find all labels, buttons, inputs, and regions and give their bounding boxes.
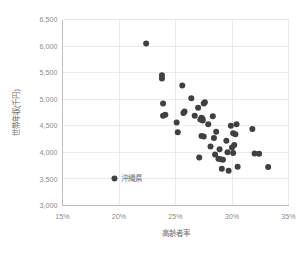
data-point [159, 75, 165, 81]
y-tick-label: 3,000 [40, 201, 58, 210]
data-point [220, 157, 226, 163]
data-point [205, 121, 211, 127]
x-tick-label: 20% [112, 212, 127, 221]
y-axis-title: 世帯年収(千円) [11, 89, 21, 136]
gridlines-group [63, 20, 289, 206]
y-tick-label: 6,500 [40, 15, 58, 24]
data-point [201, 100, 207, 106]
data-point [180, 110, 186, 116]
y-tick-label: 4,000 [40, 148, 58, 157]
y-tick-label: 5,500 [40, 68, 58, 77]
data-point [265, 164, 271, 170]
data-point [249, 126, 255, 132]
x-tick-label: 25% [168, 212, 183, 221]
data-point [228, 123, 234, 129]
point-annotation-label: 沖縄県 [121, 173, 143, 183]
data-point [217, 146, 223, 152]
chart-canvas: 3,0003,5004,0004,5005,0005,5006,0006,500… [0, 0, 307, 254]
data-point [223, 138, 229, 144]
data-point [160, 113, 166, 119]
data-point [196, 154, 202, 160]
data-point [224, 149, 230, 155]
y-tick-label: 6,000 [40, 42, 58, 51]
data-point [211, 135, 217, 141]
x-tick-labels-group: 15%20%25%30%35% [55, 212, 296, 221]
data-point [192, 113, 198, 119]
data-point [188, 95, 194, 101]
annotations-group: 沖縄県 [121, 173, 143, 183]
data-point [226, 168, 232, 174]
scatter-chart: 3,0003,5004,0004,5005,0005,5006,0006,500… [0, 0, 307, 254]
data-point [179, 82, 185, 88]
data-point [219, 166, 225, 172]
data-point [234, 121, 240, 127]
data-point [235, 164, 241, 170]
data-point [160, 100, 166, 106]
data-point [208, 144, 214, 150]
y-tick-labels-group: 3,0003,5004,0004,5005,0005,5006,0006,500 [40, 15, 58, 210]
data-point [229, 145, 235, 151]
data-point [256, 151, 262, 157]
x-tick-label: 35% [281, 212, 296, 221]
data-point [210, 113, 216, 119]
data-point [174, 120, 180, 126]
data-point [232, 131, 238, 137]
y-tick-label: 5,000 [40, 95, 58, 104]
data-point [201, 133, 207, 139]
y-tick-label: 4,500 [40, 121, 58, 130]
y-tick-label: 3,500 [40, 175, 58, 184]
data-point [200, 117, 206, 123]
data-point [195, 105, 201, 111]
data-point [175, 129, 181, 135]
x-tick-label: 30% [225, 212, 240, 221]
data-point [143, 40, 149, 46]
data-point [230, 150, 236, 156]
x-axis-title: 高齢者率 [162, 228, 191, 238]
x-tick-label: 15% [55, 212, 70, 221]
data-point [213, 129, 219, 135]
data-points-group [111, 40, 271, 181]
data-point [111, 175, 117, 181]
